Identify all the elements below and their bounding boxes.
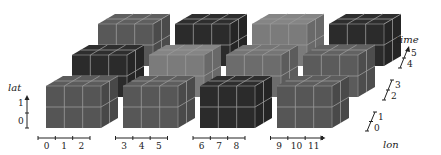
cube-front-2 bbox=[200, 76, 272, 128]
time-segment-0: 01 bbox=[365, 112, 384, 133]
cube-front-1 bbox=[123, 76, 195, 128]
lat-axis: lat 0 1 bbox=[8, 82, 30, 128]
lon-tick-11: 11 bbox=[308, 141, 319, 151]
lat-tick-1: 1 bbox=[18, 98, 24, 108]
cube-front-0 bbox=[46, 76, 118, 128]
cube-grid bbox=[46, 14, 401, 128]
lon-segment-2: 678 bbox=[193, 136, 245, 151]
lon-segment-1: 345 bbox=[116, 136, 168, 151]
lon-tick-9: 9 bbox=[276, 141, 282, 151]
time-segment-1: 23 bbox=[382, 80, 401, 101]
data-cube-diagram: lat 0 1 lon 01234567891011 time 012345 bbox=[0, 0, 441, 155]
arrow-up-right-icon bbox=[405, 46, 410, 52]
lon-tick-3: 3 bbox=[121, 141, 127, 151]
time-axis-label: time bbox=[396, 34, 419, 45]
time-tick-4: 4 bbox=[407, 59, 413, 69]
cube-front-3 bbox=[277, 76, 349, 128]
lon-axis: lon 01234567891011 bbox=[38, 136, 399, 152]
lon-tick-0: 0 bbox=[44, 141, 50, 151]
time-tick-5: 5 bbox=[411, 48, 417, 58]
lon-tick-5: 5 bbox=[156, 141, 162, 151]
arrow-up-icon bbox=[25, 95, 30, 100]
lon-tick-1: 1 bbox=[61, 141, 67, 151]
lat-tick-0: 0 bbox=[18, 116, 24, 126]
lon-tick-7: 7 bbox=[216, 141, 222, 151]
lon-tick-2: 2 bbox=[78, 141, 84, 151]
lon-tick-6: 6 bbox=[199, 141, 205, 151]
time-tick-3: 3 bbox=[395, 80, 401, 90]
lon-tick-4: 4 bbox=[139, 141, 145, 151]
lon-segment-0: 012 bbox=[38, 136, 90, 151]
lon-segment-3: 91011 bbox=[271, 136, 326, 152]
time-tick-0: 0 bbox=[374, 123, 380, 133]
lat-axis-label: lat bbox=[8, 82, 22, 93]
time-tick-1: 1 bbox=[378, 112, 384, 122]
lon-tick-10: 10 bbox=[291, 141, 303, 151]
lon-tick-8: 8 bbox=[233, 141, 239, 151]
lon-axis-label: lon bbox=[383, 139, 399, 150]
time-tick-2: 2 bbox=[391, 91, 397, 101]
